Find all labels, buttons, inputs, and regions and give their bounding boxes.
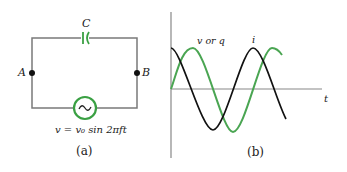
panel-b-caption: (b) xyxy=(247,146,264,158)
node-a-dot xyxy=(29,70,35,76)
ac-source-icon xyxy=(74,97,96,119)
current-curve-label: i xyxy=(252,35,255,45)
circuit-wire xyxy=(32,38,81,108)
node-b-dot xyxy=(134,70,140,76)
waveform-graph xyxy=(171,12,322,158)
capacitor-icon xyxy=(83,32,89,44)
panel-a-caption: (a) xyxy=(76,145,93,157)
time-axis-label: t xyxy=(324,94,328,104)
voltage-curve-label: v or q xyxy=(197,36,225,46)
voltage-curve xyxy=(171,48,282,132)
circuit-wire xyxy=(89,38,137,108)
source-equation: v = v₀ sin 2πft xyxy=(55,125,127,135)
capacitor-label: C xyxy=(82,18,90,29)
node-b-label: B xyxy=(142,67,150,78)
figure xyxy=(0,0,347,172)
node-a-label: A xyxy=(18,67,26,78)
circuit-diagram xyxy=(29,32,140,119)
